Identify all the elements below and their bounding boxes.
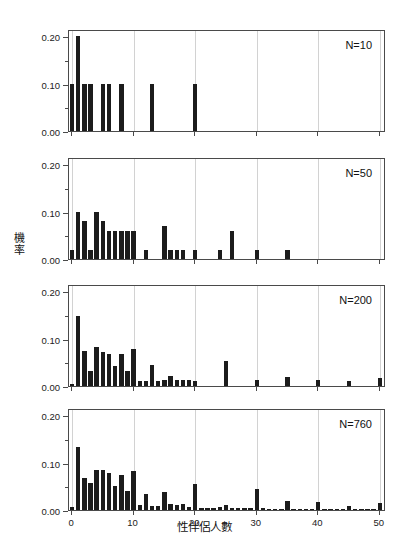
bar [119,231,123,259]
x-tick-label: 30 [250,517,261,528]
bar [168,250,172,259]
plot-frame: N=10 [68,30,385,132]
bar [181,504,185,510]
y-tick-mark [65,61,68,62]
y-tick-mark [65,487,68,488]
y-tick-label: 0.20 [0,160,60,171]
bar [242,508,246,510]
bar [70,507,74,510]
bar [113,486,117,510]
bar [224,505,228,510]
bar [359,509,363,510]
bar [255,250,259,259]
bar [285,377,289,386]
bar [365,509,369,510]
bar [304,509,308,510]
bar [285,250,289,259]
y-tick-mark [63,464,68,465]
bar [138,381,142,386]
bar [82,84,86,131]
y-tick-mark [65,189,68,190]
bar [224,361,228,386]
x-tick-mark [71,387,72,391]
x-tick-label: 20 [189,517,200,528]
bar [230,508,234,510]
y-tick-mark [65,108,68,109]
y-tick-label: 0.20 [0,287,60,298]
bar [150,84,154,131]
bar [101,470,105,510]
y-tick-label: 0.00 [0,506,60,517]
bar [279,509,283,510]
y-tick-mark [63,387,68,388]
bar [82,351,86,386]
x-tick-mark [133,511,134,515]
bar [119,84,123,131]
bar [230,231,234,259]
y-tick-mark [63,340,68,341]
bar-series [69,31,384,131]
bar [298,509,302,510]
y-tick-label: 0.10 [0,458,60,469]
plot-frame: N=760 [68,409,385,511]
bar [76,316,80,386]
bar [285,501,289,510]
bar [347,381,351,386]
bar [267,509,271,510]
bar [310,509,314,510]
bar [168,376,172,386]
x-tick-mark [194,511,195,515]
y-tick-mark [65,440,68,441]
x-tick-mark [71,260,72,264]
bar [138,505,142,510]
x-tick-mark [379,511,380,515]
bar [88,84,92,131]
x-tick-label: 10 [127,517,138,528]
x-tick-mark [71,511,72,515]
bar [353,509,357,510]
bar [291,509,295,510]
bar [107,84,111,131]
bar [119,354,123,386]
y-tick-mark [63,85,68,86]
y-tick-label: 0.10 [0,79,60,90]
x-tick-mark [133,387,134,391]
bar [236,508,240,510]
x-tick-mark [256,511,257,515]
y-tick-mark [63,132,68,133]
bar [193,484,197,510]
bar [94,212,98,259]
bar [156,381,160,386]
bar [175,505,179,510]
bar [255,489,259,510]
bar [82,478,86,510]
x-tick-mark [317,132,318,136]
bar [378,503,382,510]
bar [162,492,166,510]
bar [88,250,92,259]
bar [175,380,179,386]
bar [94,470,98,510]
y-tick-label: 0.20 [0,411,60,422]
x-tick-mark [379,387,380,391]
y-tick-mark [63,37,68,38]
bar [335,509,339,510]
bar [107,473,111,510]
bar [162,226,166,259]
bar [371,509,375,510]
bar [187,507,191,510]
x-tick-label: 0 [68,517,73,528]
bar [255,380,259,386]
plot-frame: N=50 [68,158,385,260]
bar [82,221,86,259]
figure-multipanel-histogram: 機 率 性伴侶人數 N=100.000.100.20N=500.000.100.… [0,0,408,549]
y-axis-label: 機 率 [8,232,30,256]
y-tick-label: 0.20 [0,32,60,43]
bar [218,507,222,510]
bar [94,347,98,386]
x-tick-label: 50 [374,517,385,528]
bar-series [69,286,384,386]
x-tick-mark [133,260,134,264]
x-tick-mark [133,132,134,136]
bar [113,366,117,386]
